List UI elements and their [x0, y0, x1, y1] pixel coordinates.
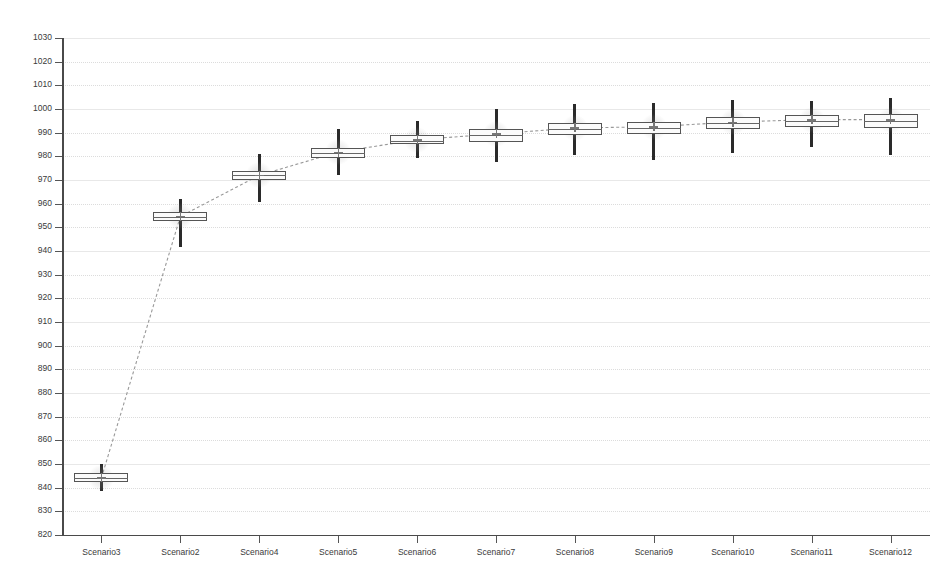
y-axis-tick: [55, 535, 62, 536]
gridline: [62, 488, 930, 489]
whisker-cap-lower: [258, 200, 261, 202]
y-axis-tick: [55, 488, 62, 489]
gridline: [62, 38, 930, 39]
y-axis-tick: [55, 511, 62, 512]
whisker-cap-upper: [573, 104, 576, 106]
whisker-cap-lower: [179, 245, 182, 247]
mean-marker: [570, 123, 579, 132]
y-axis-tick-label: 1020: [14, 57, 52, 66]
y-axis-tick: [55, 204, 62, 205]
x-axis-tick: [891, 536, 892, 543]
mean-marker: [255, 171, 264, 180]
y-axis-tick: [55, 251, 62, 252]
y-axis-tick: [55, 227, 62, 228]
y-axis-tick: [55, 62, 62, 63]
whisker-cap-lower: [810, 145, 813, 147]
gridline: [62, 346, 930, 347]
gridline: [62, 322, 930, 323]
x-axis-tick: [338, 536, 339, 543]
gridline: [62, 180, 930, 181]
x-axis-tick: [180, 536, 181, 543]
y-axis-tick-label: 870: [14, 412, 52, 421]
mean-marker: [886, 115, 895, 124]
y-axis-tick-label: 910: [14, 317, 52, 326]
x-axis-tick-label-scenario12: Scenario12: [841, 547, 940, 557]
y-axis-tick: [55, 464, 62, 465]
y-axis-tick: [55, 346, 62, 347]
gridline: [62, 298, 930, 299]
whisker-cap-upper: [258, 154, 261, 156]
whisker-cap-upper: [731, 100, 734, 102]
x-axis-tick: [654, 536, 655, 543]
mean-marker: [728, 118, 737, 127]
y-axis-tick: [55, 133, 62, 134]
gridline: [62, 251, 930, 252]
y-axis-tick: [55, 322, 62, 323]
y-axis: [62, 38, 64, 535]
y-axis-tick: [55, 440, 62, 441]
x-axis-tick: [812, 536, 813, 543]
gridline: [62, 85, 930, 86]
gridline: [62, 369, 930, 370]
gridline: [62, 417, 930, 418]
whisker-cap-lower: [731, 151, 734, 153]
y-axis-tick-label: 890: [14, 364, 52, 373]
y-axis-tick-label: 970: [14, 175, 52, 184]
mean-marker: [97, 473, 106, 482]
y-axis-tick-label: 940: [14, 246, 52, 255]
whisker-cap-upper: [652, 103, 655, 105]
whisker-cap-lower: [652, 158, 655, 160]
gridline: [62, 62, 930, 63]
whisker-cap-lower: [495, 160, 498, 162]
gridline: [62, 511, 930, 512]
y-axis-tick-label: 850: [14, 459, 52, 468]
y-axis-tick: [55, 275, 62, 276]
x-axis-tick: [101, 536, 102, 543]
y-axis-tick: [55, 298, 62, 299]
y-axis-tick-label: 930: [14, 270, 52, 279]
mean-marker: [413, 135, 422, 144]
gridline: [62, 464, 930, 465]
y-axis-tick-label: 1000: [14, 104, 52, 113]
mean-trend-line: [0, 0, 940, 578]
x-axis-tick: [259, 536, 260, 543]
whisker-cap-lower: [889, 153, 892, 155]
y-axis-tick-label: 920: [14, 293, 52, 302]
whisker-cap-upper: [495, 109, 498, 111]
y-axis-tick: [55, 369, 62, 370]
whisker-cap-upper: [889, 98, 892, 100]
boxplot-chart: 1030102010101000990980970960950940930920…: [0, 0, 940, 578]
y-axis-tick-label: 900: [14, 341, 52, 350]
y-axis-tick: [55, 156, 62, 157]
whisker-cap-lower: [573, 153, 576, 155]
y-axis-tick-label: 950: [14, 222, 52, 231]
y-axis-tick-label: 960: [14, 199, 52, 208]
y-axis-tick: [55, 109, 62, 110]
whisker-cap-upper: [337, 129, 340, 131]
gridline: [62, 275, 930, 276]
y-axis-tick: [55, 393, 62, 394]
mean-marker: [807, 115, 816, 124]
y-axis-tick-label: 990: [14, 128, 52, 137]
mean-marker: [176, 212, 185, 221]
y-axis-tick-label: 830: [14, 506, 52, 515]
x-axis-tick: [733, 536, 734, 543]
mean-marker: [649, 122, 658, 131]
x-axis-tick: [575, 536, 576, 543]
y-axis-tick: [55, 85, 62, 86]
whisker-cap-lower: [416, 156, 419, 158]
x-axis-tick: [496, 536, 497, 543]
whisker-cap-upper: [810, 101, 813, 103]
y-axis-tick-label: 840: [14, 483, 52, 492]
y-axis-tick-label: 1030: [14, 33, 52, 42]
gridline: [62, 227, 930, 228]
mean-marker: [492, 129, 501, 138]
whisker-cap-upper: [416, 121, 419, 123]
gridline: [62, 440, 930, 441]
y-axis-tick: [55, 180, 62, 181]
whisker-cap-lower: [337, 173, 340, 175]
mean-marker: [334, 148, 343, 157]
y-axis-tick-label: 880: [14, 388, 52, 397]
gridline: [62, 393, 930, 394]
y-axis-tick-label: 1010: [14, 80, 52, 89]
